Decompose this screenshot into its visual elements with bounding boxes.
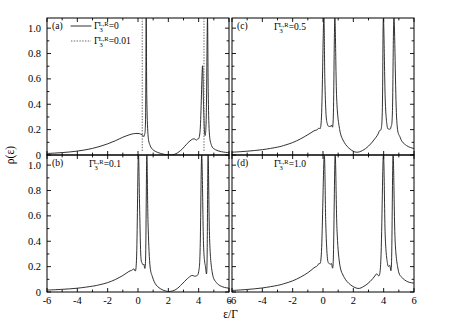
- y-tick-label: 1.0: [28, 23, 41, 34]
- y-tick-label: 1.0: [28, 160, 41, 171]
- x-tick-label: 4: [196, 295, 202, 306]
- panel-frame: [232, 155, 414, 292]
- y-tick-label: 0.2: [28, 124, 41, 135]
- y-tick-label: 0.2: [28, 261, 41, 272]
- data-curve: [232, 17, 414, 152]
- x-tick-label: 0: [320, 295, 325, 306]
- panel-tag: (c): [237, 21, 248, 32]
- x-tick-label: -6: [228, 295, 237, 306]
- y-tick-label: 0: [36, 287, 41, 298]
- x-tick-label: -4: [258, 295, 267, 306]
- panel-b: 00.20.40.60.81.0-6-4-20246(b)Γ3L,R=0.1: [28, 154, 232, 306]
- x-tick-label: 6: [411, 295, 416, 306]
- y-tick-label: 0.6: [28, 73, 41, 84]
- y-tick-label: 0.4: [28, 99, 42, 110]
- x-tick-label: -2: [288, 295, 297, 306]
- panel-parameter-label: Γ3L,R=1.0: [274, 158, 306, 172]
- x-tick-label: 0: [135, 295, 140, 306]
- panel-parameter-label: Γ3L,R=0.1: [89, 158, 121, 172]
- data-curve: [232, 155, 414, 291]
- data-curve: [47, 18, 229, 155]
- panel-tag: (b): [52, 158, 63, 169]
- density-of-states-figure: 00.20.40.60.81.0(a)Γ3L,R=0Γ3L,R=0.01(c)Γ…: [0, 0, 457, 324]
- y-tick-label: 0.8: [28, 185, 41, 196]
- y-axis-title: ρ(ε): [4, 146, 17, 164]
- y-tick-label: 0.8: [28, 48, 41, 59]
- x-tick-label: 2: [166, 295, 171, 306]
- x-tick-label: -2: [103, 295, 112, 306]
- panel-tag: (a): [52, 21, 63, 32]
- x-tick-label: 2: [351, 295, 356, 306]
- panel-tag: (d): [237, 158, 248, 169]
- x-tick-label: -4: [73, 295, 82, 306]
- y-tick-label: 0.4: [28, 236, 42, 247]
- data-curve: [47, 154, 229, 292]
- panel-a: 00.20.40.60.81.0(a)Γ3L,R=0Γ3L,R=0.01: [28, 18, 229, 161]
- x-tick-label: 4: [381, 295, 387, 306]
- x-axis-title: ε/Γ: [223, 308, 238, 320]
- panel-parameter-label: Γ3L,R=0.5: [274, 21, 306, 35]
- legend-label: Γ3L,R=0: [94, 20, 119, 34]
- panel-c: (c)Γ3L,R=0.5: [232, 17, 414, 155]
- panel-d: -6-4-20246(d)Γ3L,R=1.0: [228, 155, 417, 306]
- y-tick-label: 0.6: [28, 210, 41, 221]
- x-tick-label: -6: [43, 295, 52, 306]
- figure-container: 00.20.40.60.81.0(a)Γ3L,R=0Γ3L,R=0.01(c)Γ…: [0, 0, 457, 324]
- legend-label: Γ3L,R=0.01: [94, 35, 131, 49]
